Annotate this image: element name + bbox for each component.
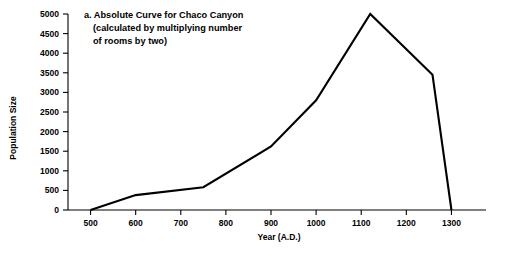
x-tick-label: 700 bbox=[174, 218, 188, 228]
x-axis-ticks: 5006007008009001000110012001300 bbox=[83, 210, 461, 228]
y-axis-title: Population Size bbox=[8, 96, 18, 160]
y-tick-label: 1500 bbox=[40, 146, 59, 156]
y-tick-label: 4500 bbox=[40, 29, 59, 39]
y-tick-label: 2000 bbox=[40, 127, 59, 137]
x-tick-label: 1300 bbox=[442, 218, 461, 228]
y-tick-label: 1000 bbox=[40, 166, 59, 176]
chart-title-line-2: (calculated by multiplying number bbox=[93, 23, 242, 33]
y-tick-label: 5000 bbox=[40, 9, 59, 19]
y-tick-label: 2500 bbox=[40, 107, 59, 117]
y-tick-label: 0 bbox=[54, 205, 59, 215]
y-tick-label: 500 bbox=[45, 185, 59, 195]
y-axis-ticks: 0500100015002000250030003500400045005000 bbox=[40, 9, 68, 215]
x-tick-label: 1000 bbox=[307, 218, 326, 228]
y-tick-label: 3500 bbox=[40, 68, 59, 78]
y-tick-label: 4000 bbox=[40, 48, 59, 58]
chart-title-line-3: of rooms by two) bbox=[93, 36, 167, 46]
y-tick-label: 3000 bbox=[40, 87, 59, 97]
chart-title-line-1: a. Absolute Curve for Chaco Canyon bbox=[84, 10, 244, 20]
x-tick-label: 1100 bbox=[352, 218, 371, 228]
x-tick-label: 500 bbox=[83, 218, 97, 228]
x-tick-label: 900 bbox=[264, 218, 278, 228]
x-tick-label: 600 bbox=[129, 218, 143, 228]
x-axis-title: Year (A.D.) bbox=[258, 232, 301, 242]
x-tick-label: 1200 bbox=[397, 218, 416, 228]
chart-figure: a. Absolute Curve for Chaco Canyon (calc… bbox=[0, 0, 525, 261]
population-line-chart: a. Absolute Curve for Chaco Canyon (calc… bbox=[0, 0, 525, 261]
x-tick-label: 800 bbox=[219, 218, 233, 228]
